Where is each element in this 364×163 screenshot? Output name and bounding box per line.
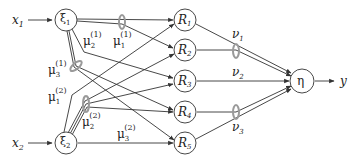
label-eta: η	[297, 74, 304, 88]
label-mu3-1: μ3(1)	[48, 59, 67, 79]
edge-R1-eta	[196, 24, 291, 73]
label-mu3-2: μ3(2)	[117, 123, 136, 143]
label-x2: x2	[12, 136, 24, 152]
label-v3: ν3	[232, 120, 244, 136]
fuzzy-network-diagram: x1 x2 ξ1 ξ2 R1 R2 R3 R4 R5 η y μ1(1) μ2(…	[0, 0, 364, 163]
label-v2: ν2	[232, 65, 244, 81]
edge-R4-eta	[197, 86, 291, 112]
label-x1: x1	[12, 13, 24, 29]
label-y: y	[339, 74, 347, 88]
mu1-1-ellipse	[119, 15, 125, 29]
v1-ellipse	[233, 44, 239, 58]
label-v1: ν1	[232, 27, 244, 43]
labels: x1 x2 ξ1 ξ2 R1 R2 R3 R4 R5 η y μ1(1) μ2(…	[12, 12, 347, 152]
label-mu1-1: μ1(1)	[113, 30, 132, 50]
label-mu2-1: μ2(1)	[83, 30, 102, 50]
edge-R2-eta	[197, 50, 291, 76]
label-mu2-2: μ2(2)	[82, 111, 101, 131]
label-mu1-2: μ1(2)	[48, 86, 67, 106]
